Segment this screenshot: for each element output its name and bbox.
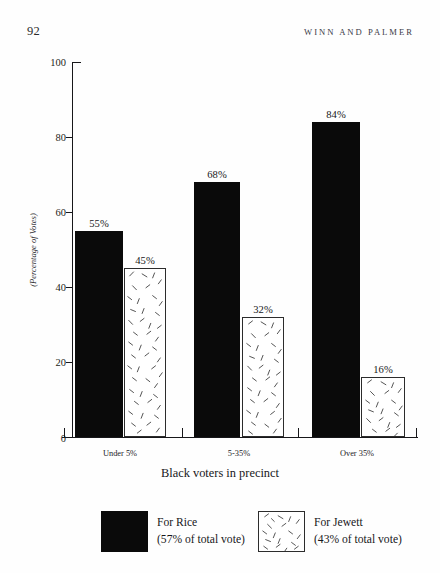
bar-fill-speckled bbox=[124, 268, 166, 437]
y-axis-title: (Percentage of Votes) bbox=[28, 213, 38, 287]
y-tick-label-80: 80 bbox=[26, 132, 66, 143]
bar-chart: 100 80 60 40 20 0 55% bbox=[0, 0, 440, 480]
bar-jewett-5-35: 32% bbox=[242, 61, 284, 437]
y-tick-20 bbox=[66, 362, 73, 363]
bar-value-label: 45% bbox=[135, 255, 154, 266]
x-tick-right-edge bbox=[416, 428, 417, 437]
bar-value-label: 84% bbox=[326, 109, 345, 120]
bar-value-label: 68% bbox=[207, 169, 226, 180]
bar-fill-speckled bbox=[361, 377, 405, 437]
legend-item-rice: For Rice (57% of total vote) bbox=[101, 511, 245, 552]
speckle-pattern-icon bbox=[361, 377, 405, 437]
x-group-label-5-35: 5-35% bbox=[228, 449, 250, 458]
bar-value-label: 55% bbox=[89, 218, 108, 229]
y-tick-40 bbox=[66, 287, 73, 288]
legend-label-line2: (57% of total vote) bbox=[157, 532, 245, 549]
bar-rice-over-35: 84% bbox=[312, 61, 360, 437]
y-tick-label-0: 0 bbox=[26, 433, 66, 444]
legend-label-line1: For Rice bbox=[157, 516, 197, 529]
legend-label-line2: (43% of total vote) bbox=[314, 532, 402, 549]
bar-fill-speckled bbox=[242, 317, 284, 437]
bar-jewett-over-35: 16% bbox=[361, 61, 405, 437]
bar-rice-5-35: 68% bbox=[194, 61, 240, 437]
legend-swatch-speckled-white-icon bbox=[258, 511, 305, 552]
legend-label-line1: For Jewett bbox=[314, 516, 363, 529]
speckle-pattern-icon bbox=[258, 511, 305, 552]
bar-value-label: 16% bbox=[373, 364, 392, 375]
x-tick-left-edge bbox=[64, 428, 65, 437]
page-canvas: 92 WINN AND PALMER 100 80 60 40 20 0 55% bbox=[0, 0, 440, 573]
legend-item-jewett: For Jewett (43% of total vote) bbox=[258, 511, 402, 552]
x-axis-title: Black voters in precinct bbox=[0, 466, 440, 481]
speckle-pattern-icon bbox=[242, 317, 284, 437]
y-axis-line bbox=[72, 62, 73, 438]
chart-legend: For Rice (57% of total vote) bbox=[0, 508, 440, 568]
x-group-label-over-35: Over 35% bbox=[340, 449, 374, 458]
x-tick-sep-1 bbox=[182, 428, 183, 437]
bar-rice-under-5: 55% bbox=[75, 61, 123, 437]
legend-swatch-solid-black-icon bbox=[101, 511, 148, 552]
speckle-pattern-icon bbox=[124, 268, 166, 437]
bar-fill-solid bbox=[312, 122, 360, 437]
bar-value-label: 32% bbox=[253, 304, 272, 315]
bar-fill-solid bbox=[75, 231, 123, 437]
bar-jewett-under-5: 45% bbox=[124, 61, 166, 437]
y-tick-label-20: 20 bbox=[26, 357, 66, 368]
y-tick-80 bbox=[66, 137, 73, 138]
x-tick-sep-2 bbox=[298, 428, 299, 437]
legend-label-jewett: For Jewett (43% of total vote) bbox=[314, 515, 402, 549]
y-tick-label-100: 100 bbox=[26, 57, 66, 68]
bar-fill-solid bbox=[194, 182, 240, 437]
x-group-label-under-5: Under 5% bbox=[103, 449, 137, 458]
legend-label-rice: For Rice (57% of total vote) bbox=[157, 515, 245, 549]
y-tick-60 bbox=[66, 212, 73, 213]
